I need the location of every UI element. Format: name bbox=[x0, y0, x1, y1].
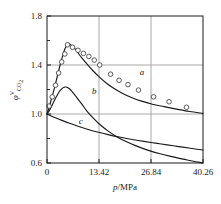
data-point-marker bbox=[184, 105, 189, 110]
chart-background bbox=[0, 0, 221, 204]
data-point-marker bbox=[81, 51, 86, 56]
data-point-marker bbox=[63, 52, 68, 57]
y-tick-label: 1.4 bbox=[31, 60, 43, 70]
x-tick-label: 40.26 bbox=[193, 167, 214, 177]
y-axis-subscript-2: 2 bbox=[18, 80, 24, 83]
x-axis-title: p/MPa bbox=[112, 182, 137, 192]
data-point-marker bbox=[76, 48, 81, 53]
data-point-marker bbox=[47, 104, 52, 109]
x-axis-title-text: p/MPa bbox=[112, 182, 137, 192]
curve-label-b: b bbox=[92, 86, 97, 96]
data-point-marker bbox=[70, 45, 75, 50]
y-axis-superscript: V bbox=[9, 90, 15, 95]
x-tick-label: 13.42 bbox=[89, 167, 109, 177]
data-point-marker bbox=[56, 71, 61, 76]
x-tick-label: 0 bbox=[45, 167, 50, 177]
data-point-marker bbox=[151, 95, 156, 100]
data-point-marker bbox=[167, 99, 172, 104]
data-point-marker bbox=[65, 42, 70, 47]
chart-svg: 013.4226.8440.26 0.61.01.41.8 abc p/MPa … bbox=[0, 0, 221, 204]
x-tick-label: 26.84 bbox=[141, 167, 162, 177]
data-point-marker bbox=[117, 78, 122, 83]
data-point-marker bbox=[59, 60, 64, 65]
data-point-marker bbox=[92, 58, 97, 63]
data-point-marker bbox=[97, 63, 102, 68]
y-tick-label: 1.0 bbox=[31, 109, 43, 119]
data-point-marker bbox=[50, 95, 55, 100]
data-point-marker bbox=[53, 83, 58, 88]
data-point-marker bbox=[126, 82, 131, 87]
y-tick-label: 1.8 bbox=[31, 11, 43, 21]
data-point-marker bbox=[108, 72, 113, 77]
y-tick-label: 0.6 bbox=[31, 158, 43, 168]
curve-label-c: c bbox=[79, 116, 83, 126]
data-point-marker bbox=[136, 88, 141, 93]
figure-container: 013.4226.8440.26 0.61.01.41.8 abc p/MPa … bbox=[0, 0, 221, 204]
curve-label-a: a bbox=[140, 67, 145, 77]
data-point-marker bbox=[87, 54, 92, 59]
